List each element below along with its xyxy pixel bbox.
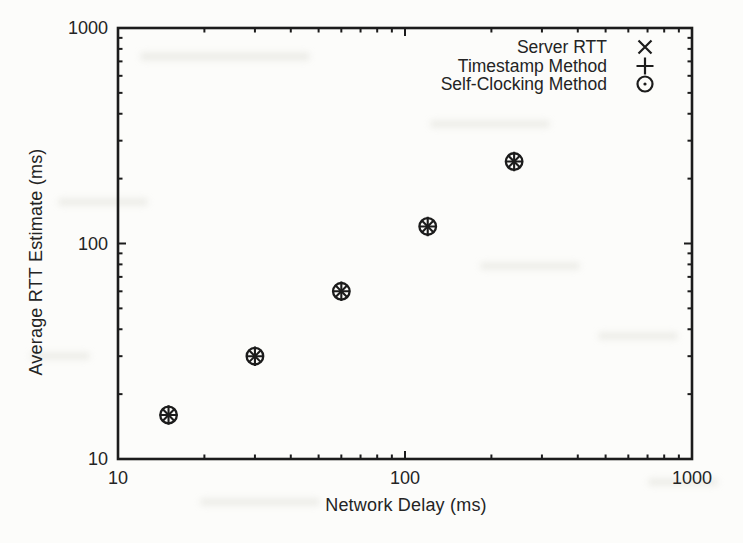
plus-marker-icon: [607, 56, 683, 76]
svg-text:1000: 1000: [672, 468, 712, 488]
svg-text:10: 10: [108, 468, 128, 488]
legend-row-timestamp: Timestamp Method: [441, 57, 683, 76]
legend-row-self-clocking: Self-Clocking Method: [441, 75, 683, 94]
legend-label-server-rtt: Server RTT: [517, 38, 607, 57]
scanned-page: 101001000101001000 Network Delay (ms) Av…: [0, 0, 743, 543]
svg-text:100: 100: [390, 468, 420, 488]
x-marker-icon: [607, 37, 683, 57]
legend-label-timestamp: Timestamp Method: [458, 57, 607, 76]
svg-text:1000: 1000: [68, 18, 108, 38]
x-axis-title: Network Delay (ms): [325, 495, 487, 516]
legend: Server RTT Timestamp Method Self-Clockin…: [441, 38, 683, 94]
legend-row-server-rtt: Server RTT: [441, 38, 683, 57]
y-axis-title: Average RTT Estimate (ms): [26, 148, 47, 375]
svg-text:10: 10: [88, 449, 108, 469]
legend-label-self-clocking: Self-Clocking Method: [441, 75, 607, 94]
circle-dot-marker-icon: [607, 74, 683, 94]
svg-text:100: 100: [78, 234, 108, 254]
